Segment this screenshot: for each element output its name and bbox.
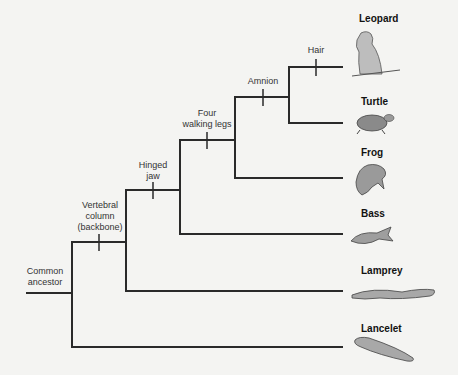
cladogram-lines: [0, 0, 458, 375]
root-common-ancestor: Common ancestor: [22, 266, 68, 288]
trait-vertebral-column: Vertebral column (backbone): [70, 200, 130, 233]
trait-hinged-jaw: Hinged jaw: [128, 160, 178, 182]
taxon-lancelet: Lancelet: [361, 323, 402, 334]
lamprey-icon: [352, 289, 435, 299]
taxon-bass: Bass: [361, 208, 385, 219]
taxon-lamprey: Lamprey: [361, 265, 403, 276]
taxon-leopard: Leopard: [359, 13, 398, 24]
taxon-frog: Frog: [361, 147, 383, 158]
trait-ticks: [99, 59, 316, 251]
fish-icon: [351, 227, 393, 244]
taxon-turtle: Turtle: [361, 96, 388, 107]
trait-four-walking-legs: Four walking legs: [175, 108, 239, 130]
trait-amnion: Amnion: [240, 76, 286, 87]
turtle-icon: [357, 115, 394, 135]
frog-icon: [356, 165, 386, 196]
leopard-icon: [352, 32, 400, 76]
trait-hair: Hair: [300, 45, 332, 56]
lancelet-icon: [355, 337, 414, 361]
